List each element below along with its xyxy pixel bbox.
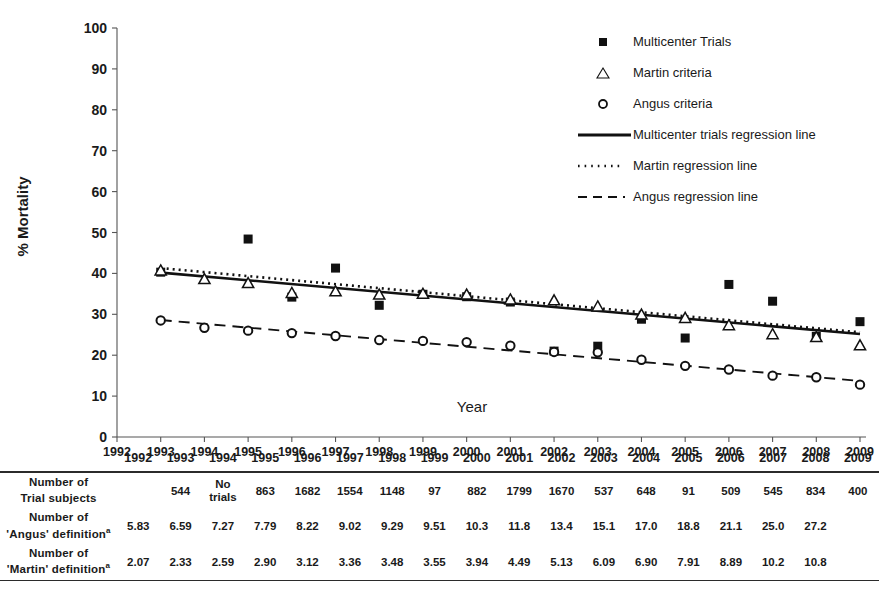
table-year-header-2002: 2002 [540,447,582,472]
marker-open-circle-2002 [550,348,558,356]
legend-label: Martin regression line [633,158,757,173]
table-year-header-2004: 2004 [625,447,667,472]
table-year-header-2001: 2001 [498,447,540,472]
table-cell: 3.12 [286,544,328,580]
table-year-header-2006: 2006 [710,447,752,472]
table-cell: 863 [244,472,286,508]
filled-square-marker-icon [575,32,633,52]
marker-filled-square-2005 [681,334,690,343]
table-row-label: Number ofTrial subjects [0,472,117,508]
table-row: Number of'Angus' definitiona5.836.597.27… [0,508,879,544]
marker-open-circle-1996 [288,329,296,337]
marker-open-triangle-2003 [592,301,603,311]
table-cell: 2.07 [117,544,159,580]
table-cell: 9.29 [371,508,413,544]
table-cell: 6.59 [159,508,201,544]
marker-open-circle-2009 [856,380,864,388]
table-cell: 6.09 [583,544,625,580]
table-cell: 3.48 [371,544,413,580]
table-cell: 5.13 [540,544,582,580]
table-year-header-2008: 2008 [794,447,836,472]
table-year-header-1998: 1998 [371,447,413,472]
table-cell: 11.8 [498,508,540,544]
table-cell: 15.1 [583,508,625,544]
summary-table-wrap: 1992199319941995199619971998199920002001… [0,447,879,601]
table-year-header-2003: 2003 [583,447,625,472]
table-cell: 537 [583,472,625,508]
table-year-header-2005: 2005 [667,447,709,472]
table-year-header-2009: 2009 [837,447,879,472]
table-corner-cell [0,447,117,472]
legend-item-multicenter-regression[interactable]: Multicenter trials regression line [575,119,875,150]
table-year-header-1995: 1995 [244,447,286,472]
marker-open-circle-2006 [725,365,733,373]
legend-item-martin-criteria[interactable]: Martin criteria [575,57,875,88]
table-cell: 545 [752,472,794,508]
open-circle-marker-icon [575,94,633,114]
figure-sepsis-mortality-trend: % Mortality 1009080706050403020100 19921… [0,0,879,601]
table-cell: 2.33 [159,544,201,580]
table-cell: 27.2 [794,508,836,544]
table-cell [117,472,159,508]
marker-filled-square-2007 [768,297,777,306]
table-cell: 1148 [371,472,413,508]
table-cell: 1682 [286,472,328,508]
marker-open-circle-2001 [506,342,514,350]
table-cell: 91 [667,472,709,508]
legend-item-multicenter-trials[interactable]: Multicenter Trials [575,26,875,57]
table-cell: 21.1 [710,508,752,544]
marker-open-triangle-2002 [548,295,559,305]
table-cell: 17.0 [625,508,667,544]
dashed-line-icon [575,187,633,207]
table-year-header-1999: 1999 [413,447,455,472]
legend-item-angus-criteria[interactable]: Angus criteria [575,88,875,119]
open-triangle-marker-icon [575,63,633,83]
chart-legend: Multicenter Trials Martin criteria Angus… [575,26,875,212]
marker-open-circle-2000 [462,338,470,346]
table-cell [837,508,879,544]
data-markers [155,235,865,389]
table-cell: 6.90 [625,544,667,580]
legend-item-martin-regression[interactable]: Martin regression line [575,150,875,181]
marker-filled-square-1998 [375,301,384,310]
marker-filled-square-1997 [331,264,340,273]
table-cell: 13.4 [540,508,582,544]
marker-open-circle-1994 [200,324,208,332]
table-cell: 3.94 [456,544,498,580]
table-row-label: Number of'Angus' definitiona [0,508,117,544]
summary-table: 1992199319941995199619971998199920002001… [0,447,879,581]
table-cell: 8.89 [710,544,752,580]
table-cell: 9.02 [329,508,371,544]
marker-open-triangle-1996 [286,287,297,297]
legend-item-angus-regression[interactable]: Angus regression line [575,181,875,212]
table-cell: 25.0 [752,508,794,544]
marker-filled-square-1995 [244,235,253,244]
marker-open-triangle-2009 [854,340,865,350]
table-cell: 1799 [498,472,540,508]
marker-open-circle-2004 [637,355,645,363]
marker-open-triangle-2007 [767,329,778,339]
table-cell: 882 [456,472,498,508]
table-cell: 834 [794,472,836,508]
marker-open-circle-2003 [594,348,602,356]
table-header-row: 1992199319941995199619971998199920002001… [0,447,879,472]
table-cell: 7.79 [244,508,286,544]
table-cell: Notrials [202,472,244,508]
legend-label: Multicenter trials regression line [633,127,816,142]
table-year-header-1994: 1994 [202,447,244,472]
marker-open-circle-1997 [331,332,339,340]
table-row-label: Number of'Martin' definitiona [0,544,117,580]
marker-open-circle-2005 [681,362,689,370]
marker-filled-square-2009 [856,317,865,326]
legend-label: Angus criteria [633,96,712,111]
table-cell [837,544,879,580]
table-cell: 7.91 [667,544,709,580]
table-cell: 2.90 [244,544,286,580]
table-year-header-2007: 2007 [752,447,794,472]
table-year-header-1997: 1997 [329,447,371,472]
table-row: Number of'Martin' definitiona2.072.332.5… [0,544,879,580]
table-cell: 8.22 [286,508,328,544]
table-cell: 10.3 [456,508,498,544]
marker-open-circle-1993 [157,316,165,324]
marker-open-circle-1999 [419,337,427,345]
